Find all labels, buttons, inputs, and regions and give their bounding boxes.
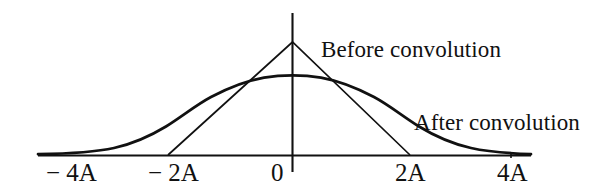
x-tick-label-2a: 2A <box>395 160 426 185</box>
convolution-figure: Before convolution After convolution − 4… <box>0 0 612 194</box>
x-tick-label-4a: 4A <box>497 160 528 185</box>
annotation-before-convolution: Before convolution <box>321 38 501 61</box>
annotation-after-convolution: After convolution <box>414 111 580 134</box>
x-tick-label-minus-2a: − 2A <box>148 160 199 185</box>
x-tick-label-minus-4a: − 4A <box>46 160 97 185</box>
x-tick-label-zero: 0 <box>271 160 284 185</box>
